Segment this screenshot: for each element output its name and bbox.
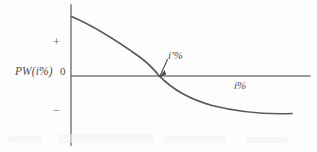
x-axis-label: i% [234, 80, 246, 91]
scan-artifact [8, 136, 42, 143]
negative-sign-label: − [53, 104, 60, 116]
scan-artifact [58, 134, 154, 143]
scan-artifact [246, 137, 288, 143]
present-worth-figure: PW(i%) 0 + − i'% i% [0, 0, 317, 152]
scan-artifact [164, 136, 226, 143]
y-axis-label: PW(i%) [15, 66, 53, 78]
irr-annotation-label: i'% [168, 50, 183, 61]
positive-sign-label: + [53, 36, 60, 48]
origin-zero-label: 0 [60, 66, 66, 77]
